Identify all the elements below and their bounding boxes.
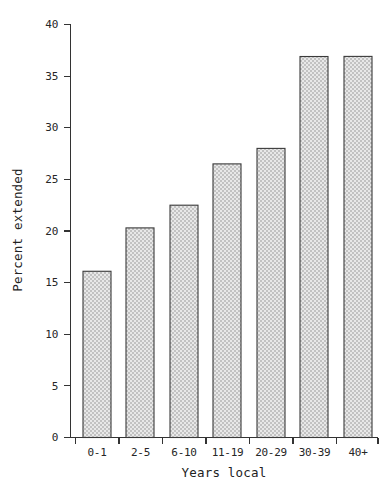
y-axis-title: Percent extended — [10, 168, 25, 292]
y-tick-label: 5 — [52, 380, 58, 393]
y-tick-label: 20 — [45, 225, 58, 238]
y-tick-label: 0 — [52, 431, 58, 444]
x-tick-label-40plus: 40+ — [349, 446, 369, 459]
y-tick-label: 10 — [45, 328, 58, 341]
y-tick-label: 35 — [45, 70, 58, 83]
bar-40plus — [344, 56, 372, 437]
y-tick-label: 40 — [45, 18, 58, 31]
x-tick-label-11-19: 11-19 — [212, 446, 244, 459]
x-axis-title: Years local — [182, 465, 267, 480]
bar-chart-figure: 0 5 10 15 20 25 30 35 40 Percent extende… — [0, 0, 386, 486]
bar-2-5 — [126, 228, 154, 438]
chart-canvas: 0 5 10 15 20 25 30 35 40 Percent extende… — [0, 0, 386, 486]
bar-20-29 — [257, 148, 285, 437]
bar-6-10 — [170, 205, 198, 437]
bar-11-19 — [213, 164, 241, 438]
x-tick-label-2-5: 2-5 — [131, 446, 150, 459]
x-tick-label-0-1: 0-1 — [88, 446, 107, 459]
x-tick-label-6-10: 6-10 — [171, 446, 196, 459]
x-tick-label-20-29: 20-29 — [255, 446, 287, 459]
y-tick-label: 25 — [45, 173, 58, 186]
y-tick-label: 15 — [45, 276, 58, 289]
bar-30-39 — [300, 57, 328, 438]
bar-0-1 — [83, 271, 111, 437]
x-tick-label-30-39: 30-39 — [299, 446, 331, 459]
y-tick-label: 30 — [45, 121, 58, 134]
